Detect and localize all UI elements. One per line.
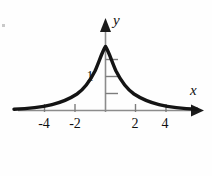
- y-tick-label-1: 1: [84, 70, 96, 84]
- x-tick-label-2: 2: [123, 117, 147, 131]
- bell-curve-figure: y x -4 -2 2 4 1: [0, 0, 212, 176]
- x-tick-label-4: 4: [153, 117, 177, 131]
- x-tick-label-minus4: -4: [31, 117, 57, 131]
- x-axis-label: x: [190, 83, 197, 98]
- x-tick-label-minus2: -2: [62, 117, 88, 131]
- y-axis-arrowhead: [100, 18, 111, 32]
- y-axis-label: y: [113, 13, 120, 28]
- plot-canvas: [0, 0, 212, 176]
